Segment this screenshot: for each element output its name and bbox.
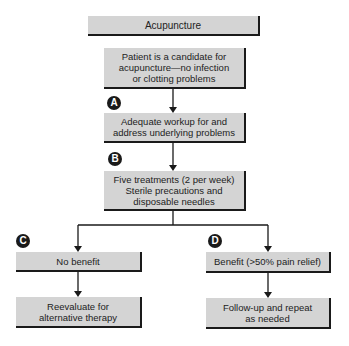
node-acupuncture: Acupuncture	[88, 16, 260, 36]
badge-a-icon: A	[107, 96, 121, 110]
node-reevaluate: Reevaluate for alternative therapy	[16, 297, 142, 328]
badge-c-icon: C	[16, 234, 30, 248]
node-no-benefit: No benefit	[16, 252, 142, 272]
node-benefit: Benefit (>50% pain relief)	[206, 252, 331, 273]
badge-b-icon: B	[108, 152, 122, 166]
node-treatments: Five treatments (2 per week) Sterile pre…	[104, 171, 246, 211]
node-candidate: Patient is a candidate for acupuncture—n…	[104, 48, 246, 89]
badge-d-icon: D	[208, 234, 222, 248]
node-follow-up: Follow-up and repeat as needed	[206, 298, 331, 329]
node-workup: Adequate workup for and address underlyi…	[104, 113, 246, 143]
